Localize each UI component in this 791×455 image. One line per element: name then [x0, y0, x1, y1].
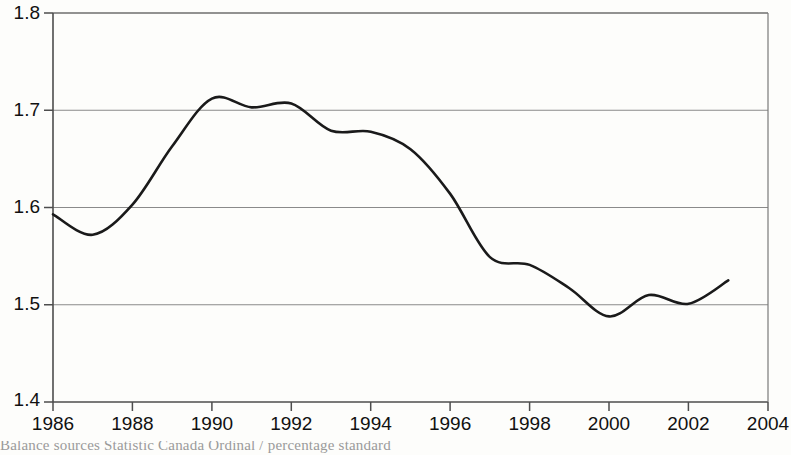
chart-figure: 1.8 1.7 1.6 1.5 1.4 1986 1988 1990 1992 … [0, 0, 791, 455]
x-tick-label: 1998 [508, 413, 550, 434]
y-tick-label: 1.6 [14, 196, 40, 217]
y-tick-label: 1.7 [14, 99, 40, 120]
y-tick-labels: 1.8 1.7 1.6 1.5 1.4 [14, 2, 41, 410]
figure-caption-text: Balance sources Statistic Canada Ordinal… [0, 441, 791, 454]
x-axis-ticks [53, 402, 768, 411]
x-tick-labels: 1986 1988 1990 1992 1994 1996 1998 2000 … [32, 413, 790, 434]
x-tick-label: 1994 [350, 413, 393, 434]
x-tick-label: 1986 [32, 413, 74, 434]
x-tick-label: 1990 [191, 413, 233, 434]
x-tick-label: 1992 [270, 413, 312, 434]
y-tick-label: 1.5 [14, 293, 40, 314]
x-tick-label: 2000 [588, 413, 630, 434]
y-tick-label: 1.8 [14, 2, 40, 23]
x-tick-label: 2004 [747, 413, 790, 434]
line-chart: 1.8 1.7 1.6 1.5 1.4 1986 1988 1990 1992 … [0, 0, 791, 455]
x-tick-label: 1988 [111, 413, 153, 434]
x-tick-label: 2002 [667, 413, 709, 434]
y-axis-ticks [44, 13, 53, 402]
figure-caption: Balance sources Statistic Canada Ordinal… [0, 441, 791, 455]
x-tick-label: 1996 [429, 413, 471, 434]
y-tick-label: 1.4 [14, 389, 41, 410]
